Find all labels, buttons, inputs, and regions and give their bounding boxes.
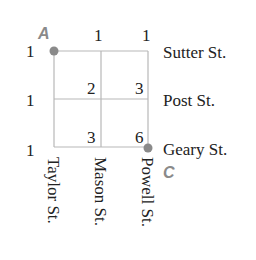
count-r2-c1: 3 bbox=[87, 128, 96, 147]
count-r1-c1: 2 bbox=[87, 79, 96, 98]
point-c-label: C bbox=[163, 164, 175, 181]
count-r1-c2: 3 bbox=[135, 79, 144, 98]
street-grid-diagram: A C 1 1 1 1 2 3 1 3 6 Sutter St. Post St… bbox=[0, 0, 256, 260]
count-r1-c0: 1 bbox=[26, 91, 35, 110]
street-label-mason: Mason St. bbox=[91, 157, 110, 226]
count-r2-c0: 1 bbox=[26, 141, 35, 160]
street-label-powell: Powell St. bbox=[138, 157, 157, 227]
street-label-sutter: Sutter St. bbox=[163, 43, 226, 62]
point-c-dot bbox=[144, 144, 153, 153]
street-label-geary: Geary St. bbox=[163, 140, 227, 159]
count-r0-c2: 1 bbox=[142, 26, 151, 45]
count-r2-c2: 6 bbox=[135, 128, 144, 147]
street-label-post: Post St. bbox=[163, 91, 215, 110]
count-r0-c1: 1 bbox=[94, 26, 103, 45]
point-a-label: A bbox=[37, 25, 50, 42]
grid bbox=[54, 51, 148, 147]
street-label-taylor: Taylor St. bbox=[44, 157, 63, 224]
point-a-dot bbox=[50, 47, 59, 56]
count-r0-c0: 1 bbox=[26, 42, 35, 61]
